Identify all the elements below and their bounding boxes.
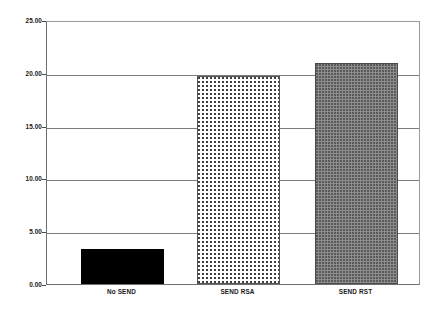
- bars-layer: [47, 22, 419, 284]
- y-axis-tick-label: 10.00: [14, 175, 42, 182]
- gridline: [47, 286, 419, 287]
- plot-area: [46, 21, 420, 285]
- y-axis-tick-label: 0.00: [14, 281, 42, 288]
- y-axis-tick-label: 5.00: [14, 228, 42, 235]
- y-axis-tick-label: 25.00: [14, 17, 42, 24]
- bar-send-rsa: [197, 76, 280, 284]
- y-axis-tick-label: 20.00: [14, 70, 42, 77]
- x-axis-label-send-rst: SEND RST: [314, 288, 397, 295]
- bar-send-rst: [315, 63, 398, 284]
- x-axis-category-labels: No SENDSEND RSASEND RST: [46, 288, 420, 302]
- bar-chart: ping RTT (ms) 0.005.0010.0015.0020.0025.…: [0, 0, 436, 313]
- bar-no-send: [81, 249, 164, 284]
- x-axis-label-no-send: No SEND: [80, 288, 163, 295]
- y-axis-tick-mark: [42, 285, 46, 286]
- y-axis-tick-labels: 0.005.0010.0015.0020.0025.00: [14, 0, 42, 313]
- y-axis-tick-label: 15.00: [14, 123, 42, 130]
- x-axis-label-send-rsa: SEND RSA: [196, 288, 279, 295]
